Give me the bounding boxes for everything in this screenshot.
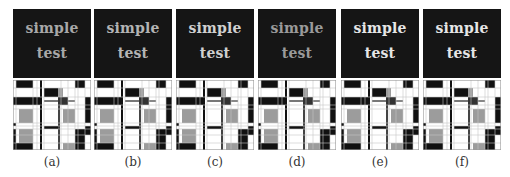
- word-test: test: [94, 45, 172, 61]
- word-test: test: [258, 45, 336, 61]
- word-test: test: [13, 45, 91, 61]
- caption: (e): [341, 155, 419, 169]
- word-test: test: [176, 45, 254, 61]
- caption: (f): [423, 155, 501, 169]
- text-image: simple test: [94, 9, 172, 78]
- caption: (c): [176, 155, 254, 169]
- caption: (d): [258, 155, 336, 169]
- grid-pattern: [176, 80, 254, 150]
- word-simple: simple: [258, 20, 336, 36]
- grid-pattern: [258, 80, 336, 150]
- grid-pattern: [341, 80, 419, 150]
- word-simple: simple: [423, 20, 501, 36]
- word-simple: simple: [341, 20, 419, 36]
- caption: (a): [13, 155, 91, 169]
- word-test: test: [341, 45, 419, 61]
- grid-pattern: [423, 80, 501, 150]
- text-image: simple test: [176, 9, 254, 78]
- word-test: test: [423, 45, 501, 61]
- word-simple: simple: [94, 20, 172, 36]
- grid-pattern: [94, 80, 172, 150]
- text-image: simple test: [258, 9, 336, 78]
- grid-pattern: [13, 80, 91, 150]
- text-image: simple test: [13, 9, 91, 78]
- text-image: simple test: [341, 9, 419, 78]
- caption: (b): [94, 155, 172, 169]
- word-simple: simple: [13, 20, 91, 36]
- text-image: simple test: [423, 9, 501, 78]
- word-simple: simple: [176, 20, 254, 36]
